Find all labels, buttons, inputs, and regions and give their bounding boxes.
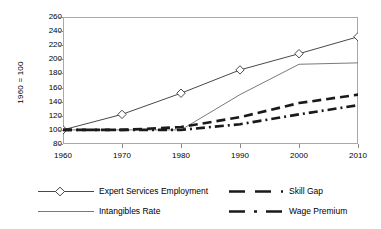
plot-lines bbox=[63, 17, 358, 144]
x-axis-tick-label: 2010 bbox=[338, 152, 378, 160]
legend-item-wage-premium: Wage Premium bbox=[228, 206, 347, 217]
y-axis-tick-mark bbox=[59, 144, 63, 145]
series-line bbox=[63, 63, 358, 130]
y-axis-tick-label: 140 bbox=[28, 98, 62, 106]
x-axis-tick-mark bbox=[122, 144, 123, 148]
x-axis-tick-mark bbox=[240, 144, 241, 148]
y-axis-tick-label: 180 bbox=[28, 69, 62, 77]
x-axis-tick-mark bbox=[358, 144, 359, 148]
series-line bbox=[63, 37, 358, 130]
y-axis-tick-label: 160 bbox=[28, 84, 62, 92]
legend-label-expert-services-employment: Expert Services Employment bbox=[99, 187, 208, 196]
y-axis-tick-label: 240 bbox=[28, 27, 62, 35]
legend-swatch-wage-premium bbox=[228, 206, 284, 217]
y-axis-tick-label: 200 bbox=[28, 55, 62, 63]
legend-item-intangibles-rate: Intangibles Rate bbox=[38, 206, 160, 217]
legend-swatch-intangibles-rate bbox=[38, 206, 94, 217]
series-marker bbox=[118, 110, 126, 118]
x-axis-tick-label: 1990 bbox=[220, 152, 260, 160]
x-axis-tick-label: 2000 bbox=[279, 152, 319, 160]
x-axis-tick-label: 1970 bbox=[102, 152, 142, 160]
legend-swatch-expert-services-employment bbox=[38, 186, 94, 197]
y-axis-tick-label: 100 bbox=[28, 126, 62, 134]
chart-legend: Expert Services Employment Skill Gap Int… bbox=[38, 184, 378, 226]
legend-swatch-skill-gap bbox=[228, 186, 284, 197]
y-axis-tick-label: 120 bbox=[28, 112, 62, 120]
legend-label-skill-gap: Skill Gap bbox=[289, 187, 323, 196]
y-axis-tick-label: 220 bbox=[28, 41, 62, 49]
series-marker bbox=[354, 33, 358, 41]
x-axis-tick-mark bbox=[181, 144, 182, 148]
y-axis-tick-label: 260 bbox=[28, 13, 62, 21]
x-axis-tick-label: 1960 bbox=[43, 152, 83, 160]
legend-label-wage-premium: Wage Premium bbox=[289, 207, 347, 216]
y-axis-tick-label: 80 bbox=[28, 140, 62, 148]
legend-item-expert-services-employment: Expert Services Employment bbox=[38, 186, 208, 197]
series-marker bbox=[295, 49, 303, 57]
series-line bbox=[63, 105, 358, 130]
series-marker bbox=[236, 66, 244, 74]
y-axis-title: 1960 = 100 bbox=[16, 37, 25, 129]
series-marker bbox=[177, 89, 185, 97]
legend-label-intangibles-rate: Intangibles Rate bbox=[99, 207, 160, 216]
legend-item-skill-gap: Skill Gap bbox=[228, 186, 323, 197]
chart-container: 1960 = 100 26024022020018016014012010080… bbox=[0, 0, 381, 229]
x-axis-tick-mark bbox=[299, 144, 300, 148]
x-axis-tick-label: 1980 bbox=[161, 152, 201, 160]
